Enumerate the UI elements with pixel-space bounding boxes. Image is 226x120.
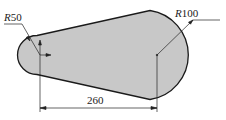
- r50-label: R50: [3, 11, 22, 23]
- center-distance-dimension: [40, 107, 157, 110]
- center-distance-label: 260: [87, 94, 104, 106]
- r100-label: R100: [174, 7, 199, 19]
- cam-profile-drawing: R50 R100 260: [0, 0, 226, 120]
